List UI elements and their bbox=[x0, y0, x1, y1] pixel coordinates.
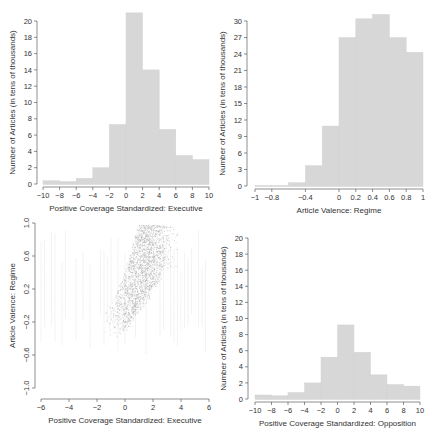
histogram-bar bbox=[338, 325, 355, 400]
x-tick-label: −8 bbox=[267, 406, 276, 415]
histogram-bar bbox=[255, 185, 272, 186]
x-tick-label: 4 bbox=[157, 191, 161, 200]
histogram-bar bbox=[305, 383, 322, 400]
y-tick-label: 0.2 bbox=[22, 284, 31, 294]
y-tick-label: 15 bbox=[234, 99, 242, 108]
histogram-bar bbox=[288, 393, 305, 400]
y-tick-label: 0 bbox=[28, 180, 32, 189]
x-tick-label: −10 bbox=[37, 191, 50, 200]
histogram-bar bbox=[406, 52, 423, 186]
histogram-opposition: −10−8−6−4−2024681002468101214161820Posit… bbox=[219, 234, 424, 428]
x-tick-label: −8 bbox=[55, 191, 64, 200]
scatter-executive-vs-regime: −6−4−20246−1.0−0.6−0.20.20.61.0Positive … bbox=[8, 218, 211, 425]
y-tick-label: 8 bbox=[239, 330, 243, 339]
x-tick-label: 6 bbox=[385, 406, 389, 415]
x-tick-label: −1 bbox=[251, 193, 260, 202]
x-axis-label: Positive Coverage Standardized: Executiv… bbox=[48, 416, 202, 425]
histogram-bar bbox=[389, 38, 406, 187]
y-tick-label: 27 bbox=[234, 33, 242, 42]
y-axis-label: Article Valence: Regime bbox=[8, 263, 17, 348]
histogram-bar bbox=[255, 395, 272, 400]
y-tick-label: 6 bbox=[238, 149, 242, 158]
histogram-bar bbox=[272, 185, 289, 186]
y-tick-label: 16 bbox=[24, 49, 32, 58]
y-tick-label: 3 bbox=[238, 165, 242, 174]
x-tick-label: 0.6 bbox=[384, 193, 394, 202]
y-tick-label: 18 bbox=[235, 250, 243, 259]
x-tick-label: −0.4 bbox=[298, 193, 313, 202]
x-tick-label: −6 bbox=[37, 403, 46, 412]
histogram-bar bbox=[321, 357, 338, 399]
histogram-bar bbox=[43, 181, 60, 185]
y-tick-label: 21 bbox=[234, 66, 242, 75]
x-tick-label: 0.8 bbox=[401, 193, 411, 202]
y-tick-label: 12 bbox=[24, 82, 32, 91]
y-tick-label: 8 bbox=[28, 114, 32, 123]
histogram-bar bbox=[93, 168, 110, 185]
histogram-bar bbox=[192, 160, 209, 185]
y-tick-label: 4 bbox=[239, 362, 243, 371]
x-tick-label: 6 bbox=[207, 403, 211, 412]
histogram-bar bbox=[176, 155, 193, 184]
histogram-bar bbox=[305, 166, 322, 187]
y-axis-label: Number of Articles (in tens of thousands… bbox=[8, 30, 17, 175]
x-tick-label: −10 bbox=[249, 406, 262, 415]
y-tick-label: −1.0 bbox=[22, 381, 31, 396]
x-tick-label: 4 bbox=[179, 403, 183, 412]
y-tick-label: −0.6 bbox=[22, 348, 31, 363]
x-axis-label: Positive Coverage Standardized: Executiv… bbox=[49, 204, 203, 213]
y-tick-label: 24 bbox=[234, 50, 242, 59]
y-tick-label: 0 bbox=[238, 182, 242, 191]
x-tick-label: 8 bbox=[190, 191, 194, 200]
y-tick-label: 4 bbox=[28, 147, 32, 156]
y-tick-label: 10 bbox=[235, 314, 243, 323]
x-tick-label: 1 bbox=[421, 193, 425, 202]
histogram-bar bbox=[109, 125, 126, 185]
y-tick-label: 6 bbox=[239, 346, 243, 355]
y-tick-label: 0 bbox=[239, 395, 243, 404]
y-tick-label: 1.0 bbox=[22, 218, 31, 228]
x-tick-label: 0 bbox=[337, 193, 341, 202]
x-tick-label: 2 bbox=[141, 191, 145, 200]
histogram-bar bbox=[404, 386, 421, 399]
scatter-points bbox=[41, 223, 210, 372]
y-tick-label: 2 bbox=[28, 163, 32, 172]
y-tick-label: 20 bbox=[24, 17, 32, 26]
x-tick-label: 8 bbox=[401, 406, 405, 415]
x-tick-label: −4 bbox=[300, 406, 309, 415]
x-axis-label: Article Valence: Regime bbox=[297, 206, 382, 215]
x-tick-label: −4 bbox=[65, 403, 74, 412]
x-tick-label: 0.4 bbox=[367, 193, 377, 202]
x-tick-label: −6 bbox=[72, 191, 81, 200]
x-tick-label: 0.2 bbox=[351, 193, 361, 202]
y-tick-label: 0.6 bbox=[22, 251, 31, 261]
y-tick-label: 12 bbox=[234, 116, 242, 125]
histogram-bar bbox=[356, 19, 373, 187]
histogram-bar bbox=[371, 375, 388, 400]
y-tick-label: 12 bbox=[235, 298, 243, 307]
y-tick-label: 18 bbox=[234, 83, 242, 92]
figure-canvas: −10−8−6−4−2024681002468101214161820Posit… bbox=[0, 0, 434, 435]
x-tick-label: −6 bbox=[284, 406, 293, 415]
histogram-bar bbox=[126, 13, 143, 185]
x-tick-label: 10 bbox=[205, 191, 213, 200]
histogram-bar bbox=[60, 182, 77, 185]
x-tick-label: 2 bbox=[151, 403, 155, 412]
x-tick-label: −0.8 bbox=[264, 193, 279, 202]
x-axis-label: Positive Coverage Standardized: Oppositi… bbox=[259, 419, 416, 428]
x-tick-label: −2 bbox=[105, 191, 114, 200]
histogram-executive: −10−8−6−4−2024681002468101214161820Posit… bbox=[8, 13, 213, 213]
y-tick-label: 14 bbox=[24, 66, 32, 75]
x-tick-label: 6 bbox=[174, 191, 178, 200]
histogram-bar bbox=[272, 396, 289, 400]
y-tick-label: 9 bbox=[238, 132, 242, 141]
histogram-bar bbox=[322, 126, 339, 186]
x-tick-label: −2 bbox=[93, 403, 102, 412]
x-tick-label: 2 bbox=[352, 406, 356, 415]
histogram-bar bbox=[143, 70, 160, 185]
y-tick-label: 2 bbox=[239, 379, 243, 388]
y-tick-label: 10 bbox=[24, 98, 32, 107]
histogram-bar bbox=[373, 14, 390, 186]
histogram-bar bbox=[354, 352, 371, 399]
y-axis-label: Number of Articles (in tens of thousands… bbox=[218, 31, 227, 176]
